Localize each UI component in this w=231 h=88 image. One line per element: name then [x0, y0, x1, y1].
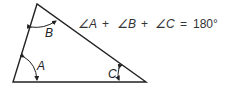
equation-result: 180° — [193, 17, 218, 31]
angle-sum-equation: ∠A + ∠B + ∠C = 180° — [78, 17, 218, 31]
equation-plus-1: + — [102, 17, 109, 31]
triangle-diagram: B A C ∠A + ∠B + ∠C = 180° — [0, 0, 231, 88]
equation-term-b: ∠B — [117, 17, 136, 31]
angle-b-label: B — [45, 26, 53, 40]
equation-term-c: ∠C — [155, 17, 175, 31]
angle-c-label: C — [108, 67, 117, 81]
triangle — [13, 4, 146, 82]
equation-equals: = — [180, 17, 187, 31]
equation-plus-2: + — [141, 17, 148, 31]
equation-term-a: ∠A — [78, 17, 97, 31]
angle-a-arc — [24, 57, 37, 80]
angle-c-arc — [118, 68, 119, 80]
angle-a-label: A — [36, 59, 45, 73]
